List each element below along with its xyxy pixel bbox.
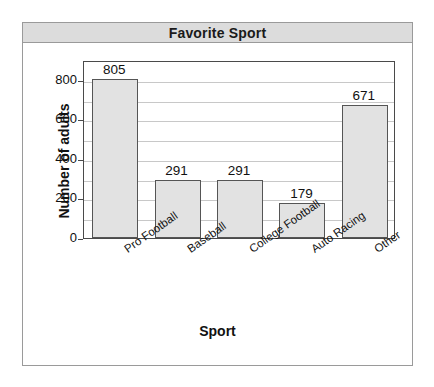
y-axis-tick-label: 600 [33, 111, 77, 126]
page-title: Favorite Sport [169, 25, 267, 41]
bar-value-label: 179 [271, 186, 331, 201]
y-axis-tick-label: 800 [33, 72, 77, 87]
y-axis-tick-mark [78, 81, 83, 82]
chart-frame: Favorite Sport Number of adults Sport 02… [22, 22, 413, 366]
y-axis-tick-label: 400 [33, 151, 77, 166]
y-axis-tick-mark [78, 120, 83, 121]
bar-value-label: 671 [334, 88, 394, 103]
bar-value-label: 291 [209, 163, 269, 178]
y-axis-tick-mark [78, 199, 83, 200]
y-axis-tick-label: 200 [33, 190, 77, 205]
y-axis-tick-mark [78, 239, 83, 240]
bar-value-label: 805 [84, 62, 144, 77]
y-axis-tick-mark [78, 160, 83, 161]
bar [92, 79, 138, 238]
y-axis-tick-label: 0 [33, 230, 77, 245]
chart-title-banner: Favorite Sport [23, 23, 412, 43]
x-axis-title: Sport [23, 323, 412, 339]
bar-value-label: 291 [147, 163, 207, 178]
